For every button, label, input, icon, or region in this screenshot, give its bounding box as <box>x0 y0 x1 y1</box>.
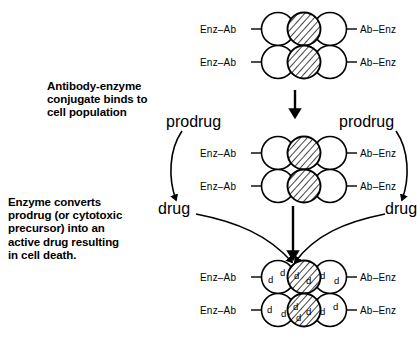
drug-inflow-arrow-left <box>196 214 292 262</box>
cell-tumour <box>288 170 321 203</box>
drug-molecule: d <box>280 268 285 278</box>
cell-tumour <box>288 46 321 79</box>
drug-label-left: drug <box>158 200 190 217</box>
drug-label-right: drug <box>385 200 417 217</box>
conversion-arrow-right <box>396 131 407 200</box>
drug-molecule: d <box>281 309 286 319</box>
conjugate-label-left: Enz–Ab <box>200 272 236 283</box>
drug-molecule: d <box>306 307 311 317</box>
drug-molecule: d <box>267 305 272 315</box>
drug-molecule: d <box>334 276 339 286</box>
cell-cluster-stage-1 <box>251 13 357 79</box>
prodrug-label-left: prodrug <box>166 113 221 130</box>
conjugate-label-right: Ab–Enz <box>360 148 396 159</box>
cell-tumour <box>288 13 321 46</box>
drug-molecule: d <box>306 276 311 286</box>
cell-cluster-stage-3 <box>251 261 357 327</box>
cell-cluster-stage-2 <box>251 137 357 203</box>
conjugate-label-right: Ab–Enz <box>360 181 396 192</box>
conjugate-label-left: Enz–Ab <box>200 148 236 159</box>
conjugate-label-right: Ab–Enz <box>360 24 396 35</box>
conjugate-label-left: Enz–Ab <box>200 24 236 35</box>
cell-tumour <box>288 137 321 170</box>
drug-molecule: d <box>333 302 338 312</box>
drug-molecule: d <box>294 271 299 281</box>
conjugate-label-right: Ab–Enz <box>360 57 396 68</box>
drug-molecule: d <box>296 313 301 323</box>
conjugate-label-left: Enz–Ab <box>200 57 236 68</box>
drug-inflow-arrow-right <box>295 214 385 262</box>
prodrug-label-right: prodrug <box>339 113 394 130</box>
conversion-arrow-left <box>171 131 182 200</box>
drug-molecule: d <box>293 302 298 312</box>
conjugate-label-right: Ab–Enz <box>360 305 396 316</box>
conjugate-label-right: Ab–Enz <box>360 272 396 283</box>
conjugate-label-left: Enz–Ab <box>200 305 236 316</box>
drug-molecule: d <box>320 271 325 281</box>
conjugate-label-left: Enz–Ab <box>200 181 236 192</box>
drug-molecule: d <box>320 307 325 317</box>
cell-tumour <box>288 261 321 294</box>
drug-molecule: d <box>268 275 273 285</box>
